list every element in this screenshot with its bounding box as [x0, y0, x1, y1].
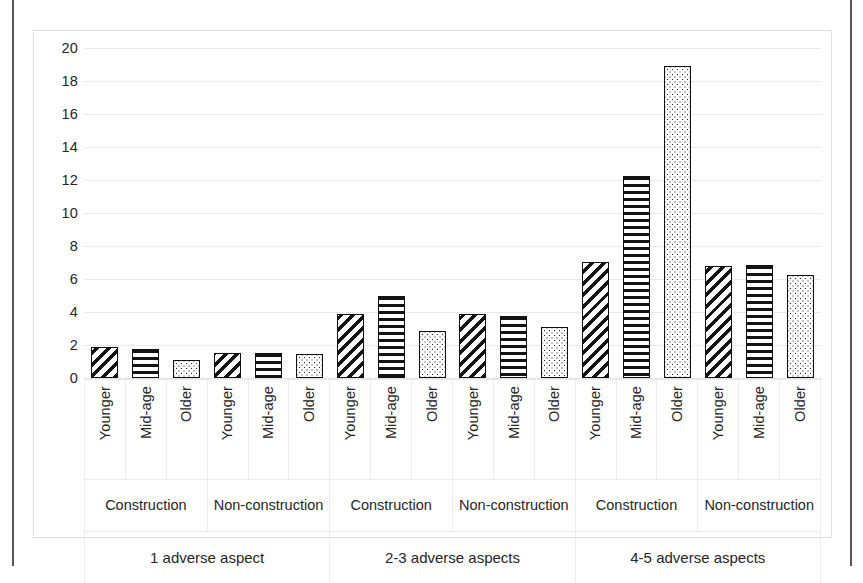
aspect-label-row: 1 adverse aspect2-3 adverse aspects4-5 a… — [84, 531, 821, 583]
industry-label: Non-construction — [214, 496, 324, 514]
bar[interactable] — [787, 275, 814, 378]
age-label-cell: Older — [779, 379, 821, 479]
bar-slot — [575, 48, 616, 378]
age-label: Mid-age — [752, 386, 767, 439]
age-label: Older — [793, 386, 808, 422]
page-edge-left — [12, 0, 14, 566]
age-label-cell: Younger — [452, 379, 493, 479]
age-label: Older — [547, 386, 562, 422]
plot-wrapper: 20181614121086420 YoungerMid-ageOlderYou… — [34, 31, 831, 537]
industry-label: Non-construction — [459, 496, 569, 514]
bar-slot — [166, 48, 207, 378]
age-label-cell: Mid-age — [248, 379, 289, 479]
bar[interactable] — [255, 353, 282, 378]
industry-label: Non-construction — [704, 496, 814, 514]
bar-slot — [248, 48, 289, 378]
age-label: Younger — [588, 386, 603, 440]
age-label: Older — [179, 386, 194, 422]
bar-slot — [412, 48, 453, 378]
age-label: Younger — [466, 386, 481, 440]
age-label: Mid-age — [507, 386, 522, 439]
y-axis-tick-label: 14 — [61, 139, 78, 155]
y-axis-tick-label: 0 — [70, 370, 78, 386]
age-label-cell: Younger — [697, 379, 738, 479]
age-label: Older — [425, 386, 440, 422]
age-label-cell: Younger — [84, 379, 125, 479]
bar-slot — [698, 48, 739, 378]
age-label: Mid-age — [139, 386, 154, 439]
aspect-label-cell: 1 adverse aspect — [84, 531, 329, 583]
aspect-label: 4-5 adverse aspects — [630, 549, 765, 566]
industry-label-cell: Construction — [575, 479, 698, 531]
age-label-cell: Older — [656, 379, 697, 479]
y-axis-tick-label: 2 — [70, 337, 78, 353]
chart-frame: 20181614121086420 YoungerMid-ageOlderYou… — [33, 30, 832, 538]
age-label: Mid-age — [261, 386, 276, 439]
y-axis-tick-label: 12 — [61, 172, 78, 188]
bar[interactable] — [132, 349, 159, 378]
bar[interactable] — [664, 66, 691, 378]
bar[interactable] — [705, 266, 732, 378]
aspect-group — [84, 48, 330, 378]
industry-subgroup — [453, 48, 576, 378]
aspect-label-cell: 4-5 adverse aspects — [575, 531, 821, 583]
y-axis: 20181614121086420 — [42, 48, 78, 378]
y-axis-tick-label: 20 — [61, 40, 78, 56]
bar-slot — [493, 48, 534, 378]
bar[interactable] — [91, 347, 118, 378]
age-label: Younger — [343, 386, 358, 440]
industry-subgroup — [575, 48, 698, 378]
bar[interactable] — [746, 265, 773, 378]
aspect-label: 1 adverse aspect — [150, 549, 264, 566]
y-axis-tick-label: 10 — [61, 205, 78, 221]
industry-label-cell: Construction — [329, 479, 452, 531]
bar[interactable] — [296, 354, 323, 378]
age-label-cell: Mid-age — [125, 379, 166, 479]
bar-slot — [289, 48, 330, 378]
industry-subgroup — [207, 48, 330, 378]
aspect-group — [330, 48, 576, 378]
y-axis-tick-label: 6 — [70, 271, 78, 287]
industry-label-row: ConstructionNon-constructionConstruction… — [84, 479, 821, 531]
age-label: Older — [302, 386, 317, 422]
age-label-cell: Mid-age — [370, 379, 411, 479]
bar[interactable] — [623, 176, 650, 378]
bar[interactable] — [459, 314, 486, 378]
age-label-cell: Older — [411, 379, 452, 479]
age-label: Mid-age — [384, 386, 399, 439]
bar-groups — [84, 48, 821, 378]
bar-slot — [330, 48, 371, 378]
bar[interactable] — [419, 331, 446, 378]
age-label-cell: Older — [534, 379, 575, 479]
bar[interactable] — [378, 296, 405, 379]
bar[interactable] — [541, 327, 568, 378]
bar-slot — [125, 48, 166, 378]
industry-label: Construction — [105, 496, 186, 514]
age-label-cell: Mid-age — [616, 379, 657, 479]
industry-label: Construction — [350, 496, 431, 514]
bar-slot — [616, 48, 657, 378]
y-axis-tick-label: 4 — [70, 304, 78, 320]
age-label: Younger — [711, 386, 726, 440]
bar-slot — [739, 48, 780, 378]
age-label-cell: Older — [288, 379, 329, 479]
bar[interactable] — [337, 314, 364, 378]
bar-slot — [371, 48, 412, 378]
age-label-cell: Younger — [575, 379, 616, 479]
bar[interactable] — [173, 360, 200, 378]
industry-label-cell: Non-construction — [452, 479, 575, 531]
bar[interactable] — [582, 262, 609, 378]
industry-subgroup — [84, 48, 207, 378]
aspect-label-cell: 2-3 adverse aspects — [329, 531, 574, 583]
industry-label: Construction — [596, 496, 677, 514]
bar-slot — [534, 48, 575, 378]
bar[interactable] — [500, 316, 527, 378]
bar[interactable] — [214, 353, 241, 378]
age-label-row: YoungerMid-ageOlderYoungerMid-ageOlderYo… — [84, 379, 821, 479]
age-label-cell: Mid-age — [738, 379, 779, 479]
industry-subgroup — [698, 48, 821, 378]
age-label-cell: Mid-age — [493, 379, 534, 479]
page-edge-right — [850, 0, 852, 566]
age-label: Younger — [220, 386, 235, 440]
industry-label-cell: Construction — [84, 479, 207, 531]
